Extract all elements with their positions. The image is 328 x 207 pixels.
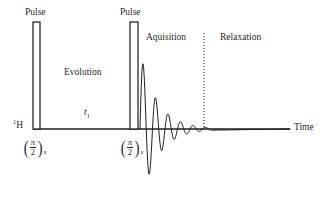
fid-waveform <box>140 64 290 175</box>
pulse-bar-1 <box>33 22 40 129</box>
pulse-caption-2: Pulse <box>120 8 141 18</box>
flip-angle-denominator-2: 2 <box>127 147 133 157</box>
time-axis-label: Time <box>294 123 314 133</box>
flip-angle-phase-1: x <box>43 149 46 157</box>
flip-angle-fraction-1: π 2 <box>29 138 36 157</box>
left-paren-1: ( <box>24 140 29 156</box>
nucleus-label: 1H <box>13 121 23 131</box>
right-paren-2: ) <box>134 140 139 156</box>
nucleus-symbol: H <box>16 120 23 130</box>
nmr-pulse-sequence-figure: Pulse Pulse Evolution Aquisition Relaxat… <box>0 0 328 207</box>
right-paren-1: ) <box>37 140 42 156</box>
period-label-evolution: Evolution <box>64 68 101 78</box>
period-label-acquisition: Aquisition <box>146 33 186 43</box>
evolution-time-label: t1 <box>84 108 90 118</box>
flip-angle-numerator-1: π <box>30 138 36 147</box>
left-paren-2: ( <box>121 140 126 156</box>
evolution-time-subscript: 1 <box>87 112 90 119</box>
flip-angle-denominator-1: 2 <box>30 147 36 157</box>
flip-angle-label-1: ( π 2 ) x <box>23 138 46 157</box>
period-label-relaxation: Relaxation <box>220 33 261 43</box>
flip-angle-fraction-2: π 2 <box>126 138 133 157</box>
pulse-bar-2 <box>130 22 138 129</box>
pulse-caption-1: Pulse <box>25 8 46 18</box>
flip-angle-numerator-2: π <box>127 138 133 147</box>
flip-angle-phase-2: x <box>140 149 143 157</box>
flip-angle-label-2: ( π 2 ) x <box>120 138 143 157</box>
